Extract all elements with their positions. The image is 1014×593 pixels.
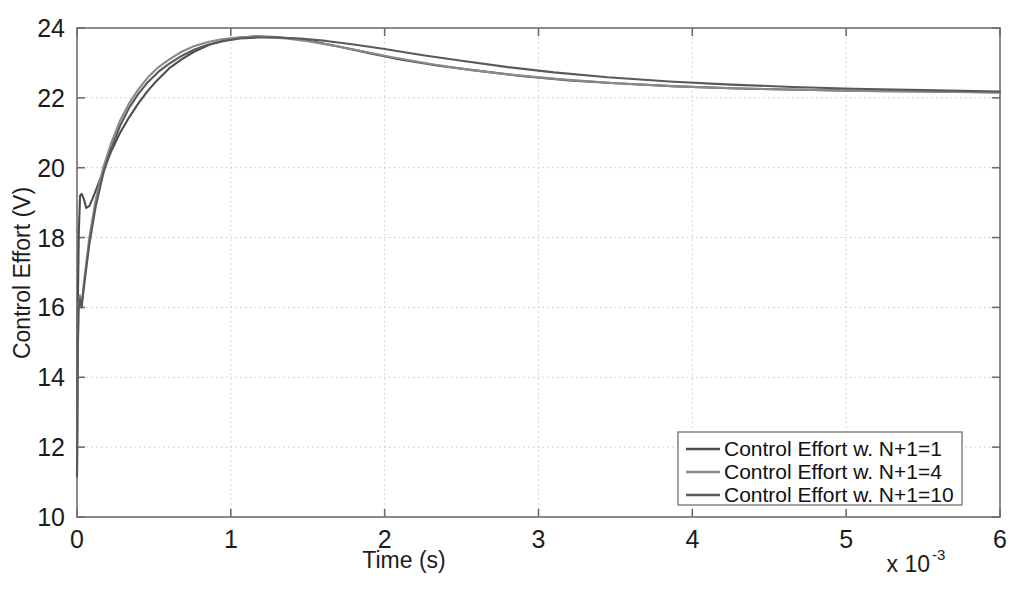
x-axis-multiplier: x 10 -3 [887,546,946,577]
x-tick-label: 4 [685,525,699,553]
chart-legend[interactable]: Control Effort w. N+1=1Control Effort w.… [678,432,962,506]
series-line-3 [77,37,1000,476]
figure-canvas: 1012141618202224 0123456 Control Effort … [0,0,1014,593]
y-tick-label: 10 [37,503,65,531]
x-tick-label: 5 [839,525,853,553]
y-tick-labels: 1012141618202224 [37,14,65,531]
y-tick-label: 24 [37,14,65,42]
data-series [77,36,1000,476]
y-tick-label: 20 [37,154,65,182]
y-axis-label: Control Effort (V) [9,187,35,359]
y-tick-label: 22 [37,84,65,112]
legend-label-1: Control Effort w. N+1=1 [724,437,942,460]
x-tick-label: 3 [532,525,546,553]
x-tick-labels: 0123456 [70,525,1007,553]
y-tick-label: 18 [37,224,65,252]
x-tick-label: 6 [993,525,1007,553]
x-axis-label: Time (s) [362,547,445,573]
legend-label-3: Control Effort w. N+1=10 [724,483,954,506]
y-tick-label: 14 [37,363,65,391]
x-multiplier-exponent: -3 [932,546,945,563]
series-line-1 [77,36,1000,475]
x-tick-label: 1 [224,525,238,553]
legend-label-2: Control Effort w. N+1=4 [724,460,942,483]
x-multiplier-base: x 10 [887,551,930,577]
x-tick-label: 0 [70,525,84,553]
y-tick-label: 12 [37,433,65,461]
chart-plot: 1012141618202224 0123456 Control Effort … [0,0,1014,593]
y-tick-label: 16 [37,293,65,321]
